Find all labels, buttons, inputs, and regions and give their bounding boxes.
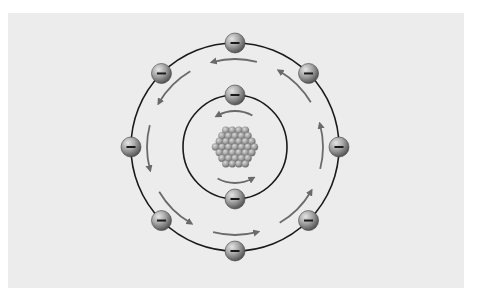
nucleon-icon [229,160,236,167]
atom-diagram [0,0,478,293]
minus-sign-icon [231,94,240,96]
minus-sign-icon [304,220,313,222]
minus-sign-icon [231,250,240,252]
curved-arrow-icon [213,59,257,62]
electron-icon [299,63,319,83]
minus-sign-icon [127,146,136,148]
minus-sign-icon [304,72,313,74]
curved-arrow-icon [320,125,323,169]
curved-arrow-icon [218,179,253,183]
curved-arrow-icon [218,111,253,115]
minus-sign-icon [231,42,240,44]
electron-icon [299,211,319,231]
curved-arrow-icon [213,232,257,235]
electron-icon [225,85,245,105]
nucleon-icon [222,160,229,167]
nucleus [212,127,258,168]
electron-icon [225,33,245,53]
electron-icon [329,137,349,157]
nucleon-icon [242,160,249,167]
electron-icon [151,211,171,231]
nucleon-icon [235,160,242,167]
minus-sign-icon [157,220,166,222]
curved-arrow-icon [147,125,150,169]
electron-icon [225,189,245,209]
minus-sign-icon [335,146,344,148]
minus-sign-icon [231,198,240,200]
electron-icon [151,63,171,83]
electron-icon [121,137,141,157]
minus-sign-icon [157,72,166,74]
electron-icon [225,241,245,261]
